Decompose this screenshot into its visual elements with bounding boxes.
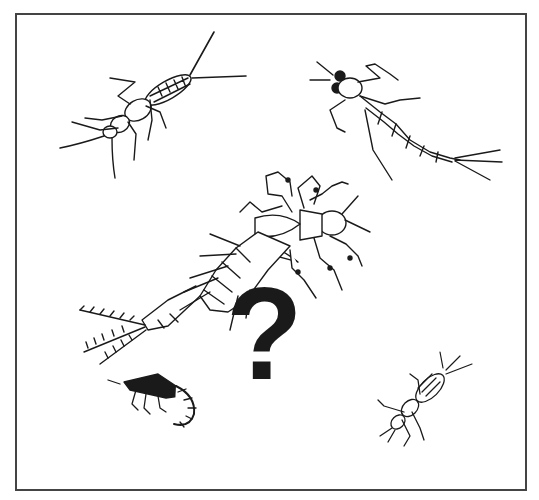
question-mark: ? (226, 268, 303, 400)
curled-larva-icon (108, 374, 196, 427)
mayfly-nymph-icon (310, 62, 502, 180)
stonefly-nymph-icon (60, 32, 246, 178)
small-nymph-icon (378, 352, 472, 446)
insect-illustration (0, 0, 539, 500)
feathered-larva-icon (80, 172, 370, 364)
